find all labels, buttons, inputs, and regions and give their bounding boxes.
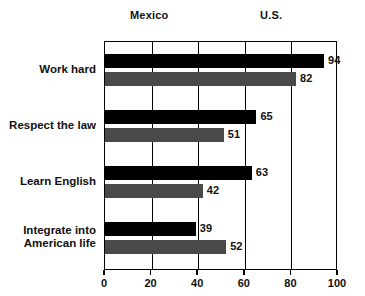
x-tick-label-60: 60 [238,277,250,289]
bar-value-mexico-group-3: 39 [200,221,212,235]
bar-value-us-group-1: 51 [228,127,240,141]
category-label-learn-english: Learn English [20,175,96,188]
x-tick-label-20: 20 [144,277,156,289]
x-tick-label-0: 0 [101,277,107,289]
legend-label-us: U.S. [260,8,282,23]
legend-label-mexico: Mexico [130,8,169,23]
category-label-work-hard: Work hard [39,63,96,76]
bar-mexico-group-3 [105,222,196,236]
bar-us-group-1 [105,128,224,142]
bar-value-us-group-2: 42 [207,183,219,197]
x-axis: 020406080100 [104,270,337,296]
x-tick-mark-60 [243,270,245,275]
bar-value-mexico-group-1: 65 [260,109,272,123]
category-label-integrate-into-american-life: Integrate into American life [23,224,96,250]
x-tick-mark-40 [196,270,198,275]
bar-us-group-0 [105,72,296,86]
legend-swatch-black-icon [106,8,121,23]
chart-legend: Mexico U.S. [0,6,365,28]
x-tick-mark-100 [336,270,338,275]
bar-value-mexico-group-2: 63 [256,165,268,179]
bar-mexico-group-0 [105,54,324,68]
bar-mexico-group-1 [105,110,256,124]
x-tick-label-100: 100 [328,277,346,289]
bar-us-group-3 [105,240,226,254]
x-tick-label-40: 40 [191,277,203,289]
category-label-respect-the-law: Respect the law [9,119,96,132]
bar-value-us-group-3: 52 [230,239,242,253]
bar-mexico-group-2 [105,166,252,180]
category-axis-labels: Work hard Respect the law Learn English … [0,41,100,270]
legend-swatch-gray-icon [236,8,251,23]
bar-us-group-2 [105,184,203,198]
bar-chart: Mexico U.S. Work hard Respect the law Le… [0,0,365,296]
x-tick-mark-0 [103,270,105,275]
x-tick-mark-80 [290,270,292,275]
bar-value-mexico-group-0: 94 [328,53,340,67]
x-tick-mark-20 [150,270,152,275]
legend-entry-us: U.S. [236,6,282,24]
legend-entry-mexico: Mexico [106,6,169,24]
x-tick-label-80: 80 [284,277,296,289]
bar-value-us-group-0: 82 [300,71,312,85]
